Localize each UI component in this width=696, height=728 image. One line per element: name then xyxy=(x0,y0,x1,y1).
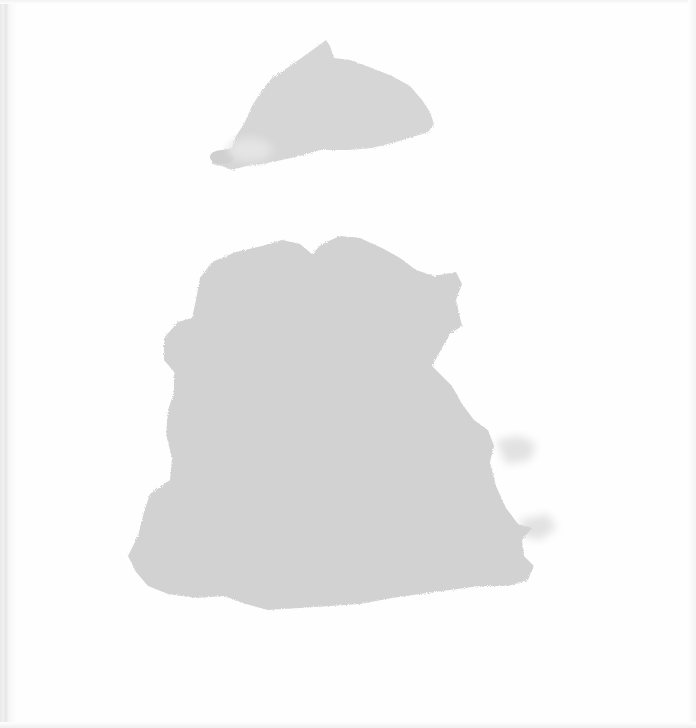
large-bottom-blob xyxy=(128,236,556,610)
watercolor-artwork xyxy=(0,0,696,728)
cover-page xyxy=(0,0,696,728)
small-top-blob xyxy=(210,40,434,170)
